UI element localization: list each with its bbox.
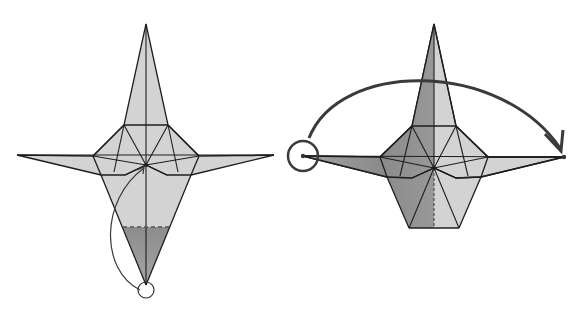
step-left-figure	[17, 24, 274, 298]
step-right-figure	[288, 24, 566, 228]
point-marker-icon	[301, 154, 305, 158]
origami-diagram	[0, 0, 580, 314]
diagram-canvas	[0, 0, 580, 314]
left-crease-lines	[17, 24, 274, 285]
point-marker-icon	[562, 155, 566, 159]
right-center-point	[432, 166, 436, 170]
